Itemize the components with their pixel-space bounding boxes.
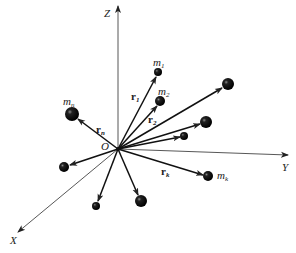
vector-label-r2: r2 <box>148 114 156 127</box>
mass-p8 <box>59 162 69 172</box>
y-axis-label: Y <box>282 162 288 173</box>
masses <box>59 68 234 210</box>
mass-p3 <box>222 78 234 90</box>
mass-p5 <box>180 132 188 140</box>
vector-label-rk: rk <box>161 166 169 179</box>
mass-label-mk: mk <box>217 170 228 183</box>
mass-label-mn: mn <box>63 96 74 109</box>
position-vectors <box>70 77 222 201</box>
mass-mn <box>65 107 79 121</box>
mass-p10 <box>135 195 147 207</box>
vector-r8 <box>70 149 118 165</box>
mass-label-m1: m1 <box>153 57 164 70</box>
y-axis <box>118 149 288 155</box>
vector-r10 <box>118 149 138 195</box>
origin-label: O <box>101 141 109 152</box>
x-axis <box>18 149 118 232</box>
z-axis-label: Z <box>104 8 110 19</box>
vector-label-r1: r1 <box>131 91 139 104</box>
mass-p9 <box>92 202 100 210</box>
vector-label-rn: rn <box>96 124 105 137</box>
mass-label-m2: m2 <box>158 86 169 99</box>
x-axis-label: X <box>10 235 17 246</box>
mass-mk <box>203 171 213 181</box>
origin-point <box>116 147 120 151</box>
mass-p4 <box>200 116 212 128</box>
